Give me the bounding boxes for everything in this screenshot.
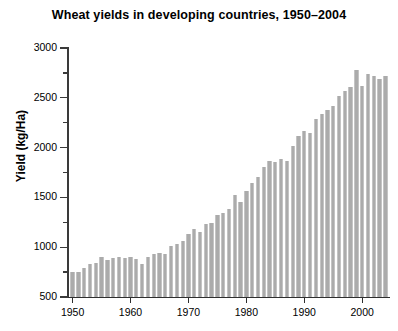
bar	[354, 70, 358, 297]
bar	[314, 119, 318, 297]
y-tick-major	[60, 147, 68, 148]
x-tick	[362, 297, 363, 303]
bar	[325, 110, 329, 297]
bar	[296, 136, 300, 297]
bar	[169, 246, 173, 297]
y-tick-major	[60, 47, 68, 48]
bar	[366, 74, 370, 297]
x-tick-label: 1990	[279, 306, 329, 318]
bar	[146, 257, 150, 297]
bar	[221, 213, 225, 297]
x-tick-label: 1970	[163, 306, 213, 318]
bar	[250, 183, 254, 297]
y-tick-label: 1000	[17, 240, 57, 252]
chart-title: Wheat yields in developing countries, 19…	[0, 8, 398, 22]
bar	[291, 146, 295, 297]
bar	[82, 268, 86, 297]
bar	[128, 257, 132, 297]
x-tick-label: 1950	[48, 306, 98, 318]
x-tick	[72, 297, 73, 303]
bar	[377, 79, 381, 297]
x-tick	[188, 297, 189, 303]
bar	[348, 87, 352, 297]
x-tick-label: 2000	[337, 306, 387, 318]
x-tick-label: 1980	[221, 306, 271, 318]
bar	[273, 162, 277, 297]
bar	[209, 223, 213, 297]
y-tick-label: 500	[17, 290, 57, 302]
bar	[360, 86, 364, 297]
bar	[198, 232, 202, 297]
bar	[279, 159, 283, 297]
bar	[337, 96, 341, 297]
bar	[302, 131, 306, 297]
plot-area	[68, 48, 390, 297]
y-tick-label: 2500	[17, 91, 57, 103]
bar	[175, 244, 179, 297]
bar	[320, 114, 324, 297]
bar	[227, 209, 231, 297]
y-tick-label: 2000	[17, 141, 57, 153]
bar	[331, 106, 335, 297]
y-tick-label: 1500	[17, 190, 57, 202]
bar	[134, 259, 138, 297]
bar	[88, 264, 92, 297]
y-tick-label: 3000	[17, 41, 57, 53]
bar	[163, 254, 167, 297]
bar	[181, 241, 185, 297]
bar	[285, 161, 289, 297]
y-tick-major	[60, 97, 68, 98]
bar	[383, 76, 387, 297]
x-tick	[304, 297, 305, 303]
bar	[215, 215, 219, 297]
bar	[233, 195, 237, 297]
x-tick-label: 1960	[106, 306, 156, 318]
bar	[308, 133, 312, 297]
bar	[152, 254, 156, 297]
bar	[140, 264, 144, 297]
bar	[111, 258, 115, 297]
bar	[123, 258, 127, 297]
bar	[372, 76, 376, 297]
bar	[244, 191, 248, 297]
bar	[256, 177, 260, 297]
y-tick-major	[60, 197, 68, 198]
bar	[262, 167, 266, 297]
bar	[343, 91, 347, 297]
bar	[70, 272, 74, 297]
bar	[192, 229, 196, 297]
bar	[238, 202, 242, 297]
bar	[267, 161, 271, 297]
bar	[99, 257, 103, 297]
bar	[157, 253, 161, 297]
chart-figure: Wheat yields in developing countries, 19…	[0, 0, 398, 331]
x-tick	[130, 297, 131, 303]
bar	[105, 260, 109, 297]
bar	[204, 224, 208, 297]
bar	[94, 263, 98, 297]
x-tick	[246, 297, 247, 303]
bar	[186, 234, 190, 297]
bar	[117, 257, 121, 297]
y-tick-major	[60, 296, 68, 297]
bar	[76, 272, 80, 297]
y-tick-major	[60, 247, 68, 248]
